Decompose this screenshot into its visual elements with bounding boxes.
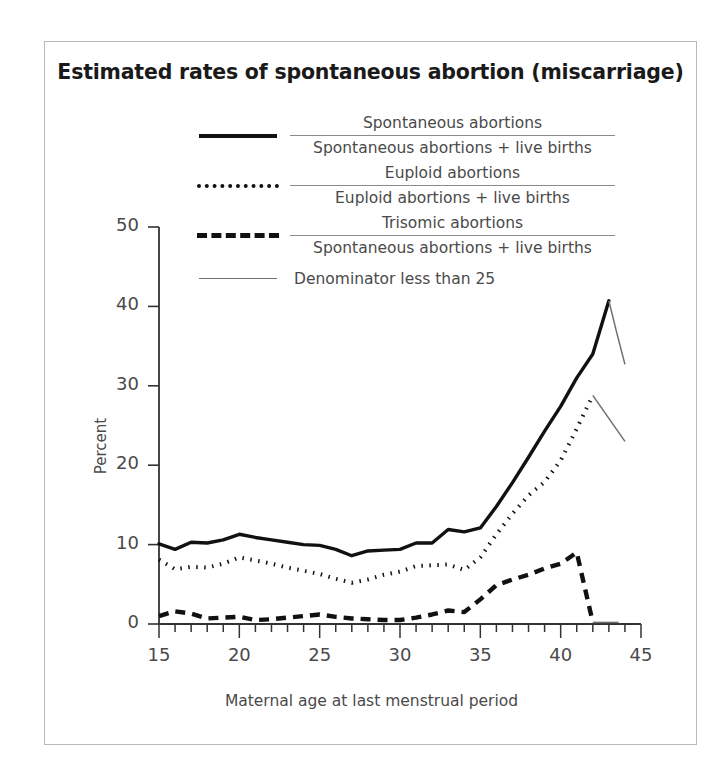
y-axis-tick-label: 20 <box>93 452 139 473</box>
chart-canvas <box>45 42 698 746</box>
y-axis-tick-label: 10 <box>93 532 139 553</box>
y-axis-tick-label: 30 <box>93 373 139 394</box>
series-line-dashed <box>159 553 593 623</box>
x-axis-tick-label: 45 <box>618 644 664 665</box>
series-low-denominator-tail-dotted <box>593 395 625 441</box>
x-axis-tick-label: 15 <box>136 644 182 665</box>
y-axis-tick-label: 50 <box>93 214 139 235</box>
series-line-dotted <box>159 395 593 582</box>
series-line-solid <box>159 301 609 556</box>
series-low-denominator-tail-solid <box>609 301 625 365</box>
y-axis-tick-label: 40 <box>93 293 139 314</box>
x-axis-tick-label: 35 <box>457 644 503 665</box>
plot-area: Percent Maternal age at last menstrual p… <box>45 42 698 746</box>
x-axis-tick-label: 25 <box>297 644 343 665</box>
x-axis-tick-label: 40 <box>538 644 584 665</box>
figure-frame: Estimated rates of spontaneous abortion … <box>44 41 697 745</box>
x-axis-tick-label: 30 <box>377 644 423 665</box>
y-axis-tick-label: 0 <box>93 611 139 632</box>
x-axis-tick-label: 20 <box>216 644 262 665</box>
